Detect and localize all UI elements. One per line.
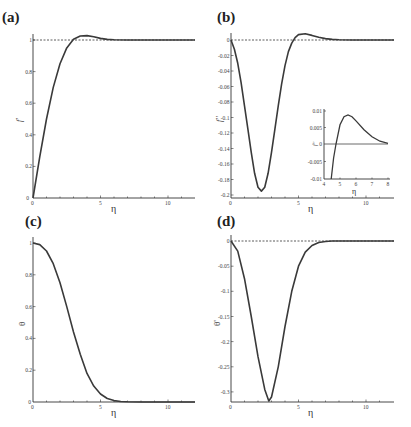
svg-text:-0.2: -0.2 bbox=[221, 192, 230, 198]
svg-text:-0.18: -0.18 bbox=[218, 177, 230, 183]
panel-b-y-label: f'' bbox=[215, 116, 224, 122]
inset-ticks: 0.01 0.005 0 -0.005 -0.01 4 5 6 7 8 bbox=[308, 108, 390, 187]
svg-text:7: 7 bbox=[371, 181, 374, 187]
svg-text:0.8: 0.8 bbox=[25, 272, 32, 278]
svg-text:4: 4 bbox=[323, 181, 326, 187]
svg-text:0: 0 bbox=[31, 404, 34, 410]
svg-text:-0.05: -0.05 bbox=[218, 263, 230, 269]
svg-text:0: 0 bbox=[319, 141, 322, 147]
svg-text:-0.3: -0.3 bbox=[221, 389, 230, 395]
svg-text:5: 5 bbox=[297, 200, 300, 206]
panel-c-curve-theta bbox=[33, 243, 195, 402]
svg-text:-0.12: -0.12 bbox=[218, 130, 230, 136]
panel-a-y-ticks: 0 0.2 0.4 0.6 0.8 1 bbox=[25, 37, 35, 201]
panel-c-x-ticks: 0 5 10 bbox=[31, 400, 182, 411]
svg-text:5: 5 bbox=[339, 181, 342, 187]
panel-c-y-label: θ bbox=[17, 322, 27, 326]
panel-a-y-label: f' bbox=[15, 118, 24, 122]
svg-text:0.01: 0.01 bbox=[312, 108, 322, 114]
svg-text:-0.06: -0.06 bbox=[218, 84, 230, 90]
panel-d-x-ticks: 0 5 10 bbox=[229, 400, 380, 411]
panel-b: (b) 0 5 10 0 -0.02 -0.04 -0.06 -0.08 -0 bbox=[215, 9, 394, 214]
panel-a-x-ticks: 0 5 10 bbox=[31, 196, 182, 207]
svg-text:10: 10 bbox=[165, 404, 171, 410]
figure: (a) 0 5 10 0 0.2 0.4 0.6 0.8 1 η f' bbox=[0, 0, 411, 427]
svg-text:-0.04: -0.04 bbox=[218, 68, 230, 74]
svg-text:0: 0 bbox=[26, 195, 29, 201]
inset-y-label: f'' bbox=[312, 141, 318, 146]
svg-text:-0.15: -0.15 bbox=[218, 314, 230, 320]
inset-curve bbox=[331, 115, 388, 179]
panel-a-curve-f-prime bbox=[33, 36, 195, 198]
panel-b-inset: 0.01 0.005 0 -0.005 -0.01 4 5 6 7 8 η f'… bbox=[308, 108, 390, 196]
svg-text:0: 0 bbox=[227, 37, 230, 43]
panel-b-label: (b) bbox=[217, 9, 235, 26]
svg-text:0.4: 0.4 bbox=[25, 335, 32, 341]
panel-b-x-ticks: 0 5 10 bbox=[229, 196, 380, 207]
panel-c-label: (c) bbox=[25, 213, 42, 230]
svg-text:0: 0 bbox=[229, 200, 232, 206]
svg-text:0.2: 0.2 bbox=[25, 367, 32, 373]
svg-text:-0.2: -0.2 bbox=[221, 339, 230, 345]
svg-text:0: 0 bbox=[28, 399, 31, 405]
svg-text:-0.01: -0.01 bbox=[311, 176, 323, 182]
svg-text:10: 10 bbox=[363, 404, 369, 410]
svg-text:-0.08: -0.08 bbox=[218, 99, 230, 105]
svg-text:1: 1 bbox=[29, 240, 32, 246]
panel-d-curve-theta-prime bbox=[231, 241, 394, 401]
svg-text:0.005: 0.005 bbox=[310, 125, 323, 131]
svg-text:10: 10 bbox=[165, 200, 171, 206]
panel-d-x-label: η bbox=[308, 407, 313, 418]
svg-text:1: 1 bbox=[29, 37, 32, 43]
svg-text:0: 0 bbox=[31, 200, 34, 206]
panel-c: (c) 0 5 10 0 0.2 0.4 0.6 0.8 1 η θ bbox=[17, 213, 195, 418]
svg-text:-0.25: -0.25 bbox=[218, 364, 230, 370]
panel-a-label: (a) bbox=[2, 9, 20, 26]
svg-text:10: 10 bbox=[363, 200, 369, 206]
svg-text:-0.1: -0.1 bbox=[221, 288, 230, 294]
panel-a-x-label: η bbox=[111, 203, 116, 214]
svg-text:5: 5 bbox=[99, 200, 102, 206]
svg-text:0.2: 0.2 bbox=[25, 163, 32, 169]
panel-d: (d) 0 5 10 0 -0.05 -0.1 -0.15 -0.2 -0.25… bbox=[212, 213, 394, 418]
panel-b-x-label: η bbox=[308, 203, 313, 214]
panel-c-x-label: η bbox=[111, 407, 116, 418]
svg-text:0.6: 0.6 bbox=[25, 304, 32, 310]
svg-text:0.8: 0.8 bbox=[25, 69, 32, 75]
svg-text:5: 5 bbox=[99, 404, 102, 410]
svg-text:-0.16: -0.16 bbox=[218, 161, 230, 167]
svg-text:5: 5 bbox=[297, 404, 300, 410]
svg-text:8: 8 bbox=[387, 181, 390, 187]
svg-text:0: 0 bbox=[229, 404, 232, 410]
svg-text:0.4: 0.4 bbox=[25, 132, 32, 138]
svg-text:-0.005: -0.005 bbox=[308, 159, 322, 165]
svg-text:0: 0 bbox=[227, 238, 230, 244]
svg-text:0.6: 0.6 bbox=[25, 100, 32, 106]
panel-d-label: (d) bbox=[217, 213, 235, 230]
inset-x-label: η bbox=[352, 187, 356, 196]
svg-text:-0.14: -0.14 bbox=[218, 146, 230, 152]
svg-text:-0.02: -0.02 bbox=[218, 53, 230, 59]
panel-a: (a) 0 5 10 0 0.2 0.4 0.6 0.8 1 η f' bbox=[2, 9, 195, 214]
panel-d-y-label: θ' bbox=[212, 320, 222, 326]
